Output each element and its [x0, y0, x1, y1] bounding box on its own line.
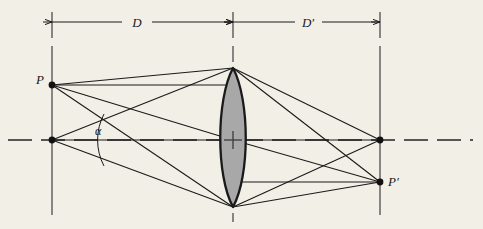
ray-P-to-lens-top	[52, 68, 233, 85]
dimension-Dprime-label: D′	[301, 15, 314, 30]
image-point-label: P′	[387, 174, 399, 189]
ray-axis-to-lens-top	[52, 68, 233, 140]
ray-bundle-to-Pprime	[233, 68, 380, 207]
axial-image-point-marker	[377, 137, 384, 144]
optics-ray-diagram-figure: D D′	[0, 0, 483, 229]
ray-P-to-lens-bottom	[52, 85, 233, 207]
ray-lens-upper-to-Pprime	[233, 140, 380, 182]
ray-lens-bottom-to-axis-image	[233, 140, 380, 207]
dimension-Dprime: D′	[233, 15, 380, 30]
ray-lens-bottom-to-Pprime	[233, 182, 380, 207]
ray-lens-top-to-axis-image	[233, 68, 380, 140]
ray-axis-to-lens-bottom	[52, 140, 233, 207]
dimension-D-label: D	[131, 15, 142, 30]
axial-object-point-marker	[49, 137, 56, 144]
diagram-canvas: D D′	[0, 0, 483, 229]
object-point-label: P	[35, 72, 44, 87]
dimension-D: D	[52, 15, 233, 30]
angle-alpha-label: α	[95, 124, 102, 138]
ray-P-to-lens-center	[52, 85, 233, 140]
ray-bundle-from-P	[52, 68, 233, 207]
ray-bundle-from-axial-object	[52, 68, 233, 207]
ray-lens-top-to-Pprime	[233, 68, 380, 182]
image-point-Pprime-marker	[377, 179, 384, 186]
object-point-P-marker	[49, 82, 56, 89]
